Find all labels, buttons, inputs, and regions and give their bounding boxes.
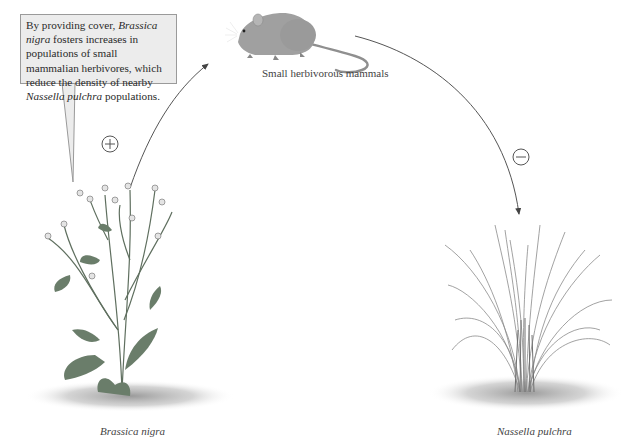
brassica-nigra-illustration xyxy=(25,183,235,412)
mouse-illustration xyxy=(225,13,368,72)
callout-text-1: By providing cover, xyxy=(26,19,118,31)
callout-species-2: Nassella pulchra xyxy=(26,90,102,102)
nassella-label: Nassella pulchra xyxy=(497,425,572,437)
mammal-label: Small herbivorous mammals xyxy=(262,67,388,79)
callout-box: By providing cover, Brassica nigra foste… xyxy=(20,14,177,84)
brassica-label: Brassica nigra xyxy=(100,425,165,437)
plus-sign-icon xyxy=(102,136,118,152)
callout-text-3: populations. xyxy=(102,90,160,102)
nassella-pulchra-illustration xyxy=(428,225,624,411)
minus-sign-icon xyxy=(513,149,529,165)
negative-effect-arrow xyxy=(355,36,519,214)
